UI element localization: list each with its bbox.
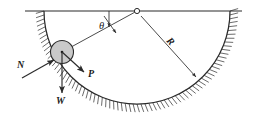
radius-label: R bbox=[164, 34, 178, 47]
normal-force-label: N bbox=[16, 59, 25, 70]
normal-force-vector bbox=[22, 60, 54, 78]
physics-diagram-figure: θ R N W P bbox=[0, 0, 255, 116]
applied-force-label: P bbox=[88, 68, 95, 79]
angle-theta-label: θ bbox=[99, 20, 104, 31]
diagram-canvas: θ R N W P bbox=[0, 0, 255, 116]
radius-line-to-ball bbox=[62, 11, 137, 52]
pivot-point bbox=[134, 8, 139, 13]
theta-angle-leg bbox=[104, 16, 116, 33]
weight-force-label: W bbox=[56, 95, 66, 106]
